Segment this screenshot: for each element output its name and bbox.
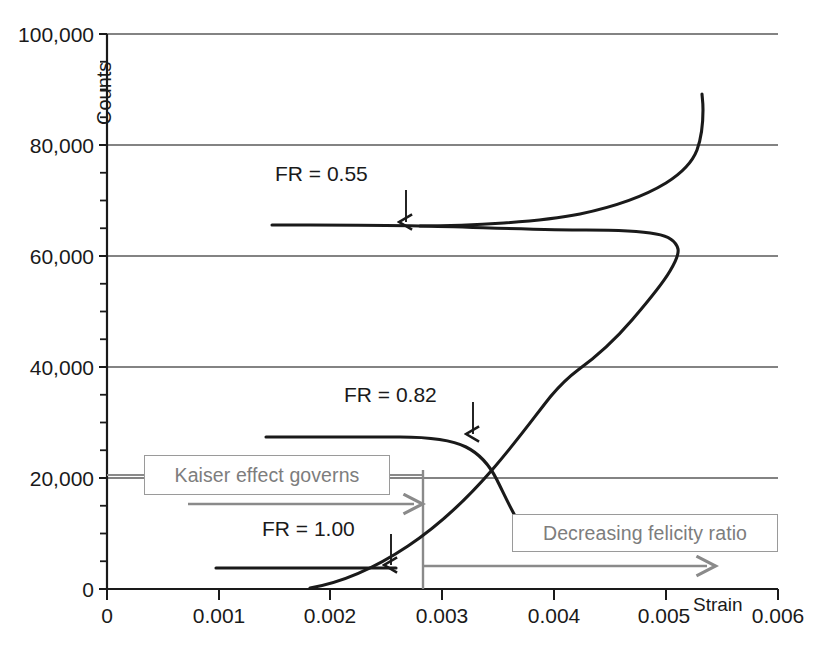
decreasing-felicity-callout: Decreasing felicity ratio bbox=[512, 514, 778, 552]
ae-curve-upper bbox=[420, 94, 703, 226]
fr-100-label: FR = 1.00 bbox=[262, 518, 355, 539]
fr-082-label: FR = 0.82 bbox=[344, 384, 437, 405]
x-tick-label-0002: 0.002 bbox=[290, 605, 370, 626]
x-axis-title: Strain bbox=[693, 595, 743, 614]
y-tick-label-100000: 100,000 bbox=[0, 24, 94, 45]
y-axis-title: Counts bbox=[94, 62, 114, 125]
chart-container: 100,000 80,000 60,000 40,000 20,000 0 Co… bbox=[0, 0, 826, 655]
x-tick-label-0: 0 bbox=[67, 605, 147, 626]
fr-055-label: FR = 0.55 bbox=[275, 163, 368, 184]
x-tick-label-0003: 0.003 bbox=[402, 605, 482, 626]
chart-plot-svg bbox=[0, 0, 826, 655]
x-tick-label-0005: 0.005 bbox=[624, 605, 704, 626]
y-tick-label-40000: 40,000 bbox=[0, 357, 94, 378]
x-tick-label-0001: 0.001 bbox=[179, 605, 259, 626]
y-tick-label-60000: 60,000 bbox=[0, 246, 94, 267]
x-major-ticks bbox=[107, 589, 778, 600]
x-tick-label-0006: 0.006 bbox=[738, 605, 818, 626]
kaiser-effect-callout: Kaiser effect governs bbox=[144, 455, 390, 495]
y-tick-label-20000: 20,000 bbox=[0, 468, 94, 489]
x-tick-label-0004: 0.004 bbox=[514, 605, 594, 626]
y-tick-label-0: 0 bbox=[0, 579, 94, 600]
y-tick-label-80000: 80,000 bbox=[0, 135, 94, 156]
